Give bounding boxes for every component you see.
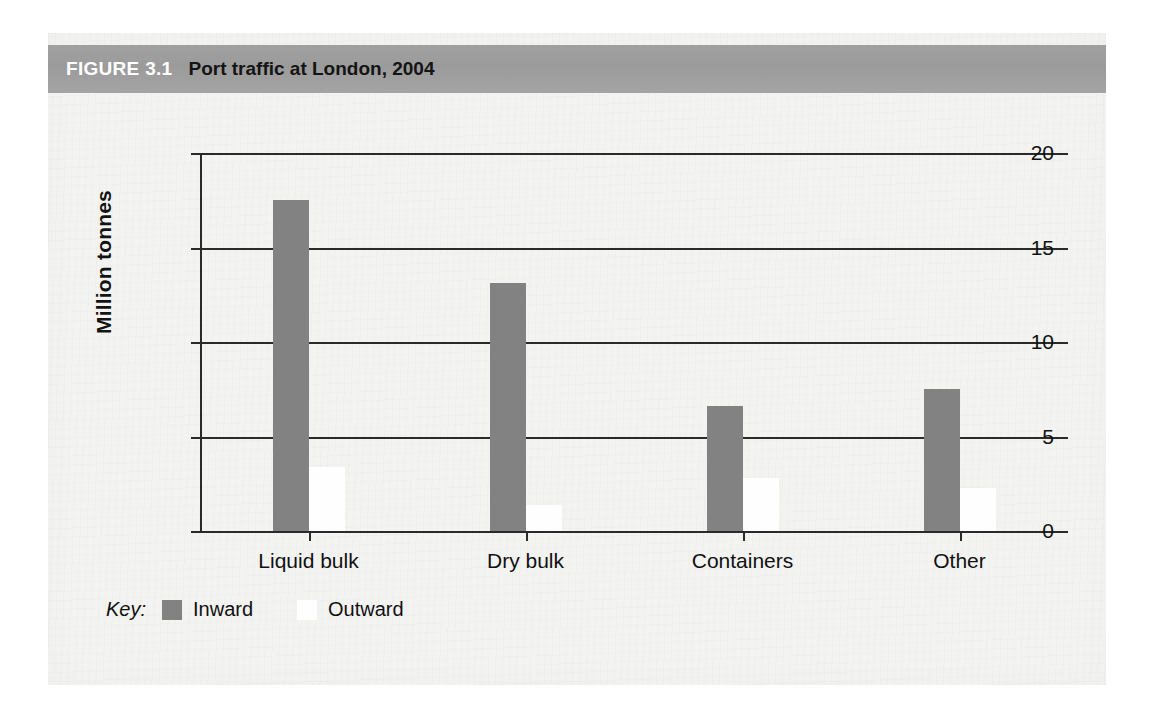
gridline: [200, 342, 1068, 344]
x-tick-mark: [743, 531, 745, 541]
gridline: [200, 153, 1068, 155]
x-tick-mark: [309, 531, 311, 541]
bar-outward: [309, 467, 345, 531]
figure-title: Port traffic at London, 2004: [188, 58, 434, 80]
bar-outward: [526, 505, 562, 531]
x-category-label: Dry bulk: [487, 549, 564, 573]
gridline: [200, 248, 1068, 250]
y-tick-label: 0: [1042, 519, 1054, 543]
inward-swatch: [162, 600, 182, 620]
plot-area: 05101520Liquid bulkDry bulkContainersOth…: [200, 153, 1068, 531]
legend-item: Outward: [297, 598, 404, 621]
legend-item-label: Inward: [193, 598, 253, 621]
y-tick-mark: [191, 531, 200, 533]
chart-legend: Key: InwardOutward: [106, 598, 448, 621]
x-tick-mark: [960, 531, 962, 541]
y-tick-label: 10: [1031, 330, 1054, 354]
legend-item: Inward: [162, 598, 253, 621]
bar-inward: [490, 283, 526, 531]
y-tick-mark: [191, 342, 200, 344]
bar-inward: [924, 389, 960, 531]
bar-inward: [273, 200, 309, 531]
bar-outward: [743, 478, 779, 531]
bar-outward: [960, 488, 996, 531]
y-tick-mark: [191, 437, 200, 439]
y-tick-label: 5: [1042, 424, 1054, 448]
legend-key-label: Key:: [106, 598, 146, 621]
x-category-label: Liquid bulk: [258, 549, 358, 573]
y-axis-title: Million tonnes: [92, 162, 116, 362]
chart-plot-wrapper: Million tonnes 05101520Liquid bulkDry bu…: [48, 33, 1106, 685]
y-tick-label: 20: [1031, 141, 1054, 165]
figure-title-band: FIGURE 3.1 Port traffic at London, 2004: [48, 45, 1106, 93]
figure-number-label: FIGURE 3.1: [66, 58, 172, 80]
x-category-label: Containers: [692, 549, 794, 573]
y-tick-mark: [191, 248, 200, 250]
figure-container: FIGURE 3.1 Port traffic at London, 2004 …: [48, 33, 1106, 685]
outward-swatch: [297, 600, 317, 620]
x-category-label: Other: [933, 549, 986, 573]
y-tick-mark: [191, 153, 200, 155]
y-tick-label: 15: [1031, 235, 1054, 259]
legend-item-label: Outward: [328, 598, 404, 621]
x-tick-mark: [526, 531, 528, 541]
bar-inward: [707, 406, 743, 531]
x-axis-line: [200, 531, 1068, 533]
